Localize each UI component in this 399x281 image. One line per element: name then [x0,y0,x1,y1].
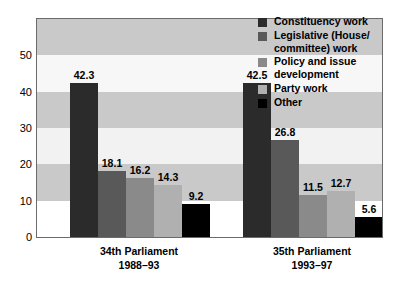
legend-swatch-icon [258,99,267,108]
category-label-line1: 34th Parliament [69,244,209,258]
bar-value-label: 18.1 [98,158,126,169]
bar-value-label: 42.3 [70,70,98,81]
legend-item-label: Policy and issue development [274,55,394,81]
legend-swatch-icon [258,85,267,94]
bar-value-label: 26.8 [271,127,299,138]
legend-item-label: Party work [274,82,328,95]
y-axis-tick-label: 20 [2,159,32,170]
bar [327,191,355,237]
bar [70,83,98,237]
bar-value-label: 9.2 [182,191,210,202]
bar [355,217,383,237]
bar-value-label: 14.3 [154,172,182,183]
y-axis-tick-label: 0 [2,232,32,243]
bar-value-label: 16.2 [126,165,154,176]
y-axis-tick-label: 30 [2,123,32,134]
legend-item-label: Other [274,96,302,109]
legend-item[interactable]: Legislative (House/ committee) work [258,29,394,55]
x-axis-category-label: 35th Parliament1993–97 [242,244,382,272]
legend-item-label: Legislative (House/ committee) work [274,29,394,55]
bar [126,178,154,237]
y-axis-tick-label: 40 [2,86,32,97]
bar-chart: 01020304050 42.318.116.214.39.242.526.81… [0,0,399,281]
category-label-line2: 1993–97 [242,258,382,272]
bar-value-label: 5.6 [355,204,383,215]
y-axis-tick-label: 10 [2,195,32,206]
bar [182,204,210,237]
legend-item[interactable]: Other [258,96,394,109]
category-label-line1: 35th Parliament [242,244,382,258]
legend-item[interactable]: Policy and issue development [258,55,394,81]
y-axis-tick-label: 50 [2,50,32,61]
legend-swatch-icon [258,18,267,27]
category-label-line2: 1988–93 [69,258,209,272]
bar [271,140,299,237]
legend-swatch-icon [258,58,267,67]
bar-value-label: 12.7 [327,178,355,189]
bar [299,195,327,237]
x-axis-category-label: 34th Parliament1988–93 [69,244,209,272]
y-axis: 01020304050 [0,18,32,238]
legend-item[interactable]: Party work [258,82,394,95]
chart-legend: Constituency workLegislative (House/ com… [258,15,394,110]
bar-value-label: 11.5 [299,182,327,193]
legend-swatch-icon [258,32,267,41]
bar [154,185,182,237]
bar [98,171,126,237]
legend-item-label: Constituency work [274,15,368,28]
legend-item[interactable]: Constituency work [258,15,394,28]
